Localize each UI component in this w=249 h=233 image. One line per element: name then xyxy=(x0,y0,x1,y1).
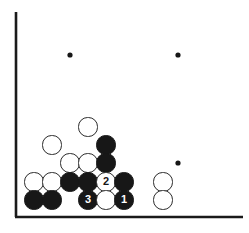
stone-black-move-3: 3 xyxy=(78,190,97,209)
star-point-0 xyxy=(67,52,72,57)
stone-black xyxy=(78,172,97,191)
stone-white-move-2: 2 xyxy=(96,172,115,191)
star-point-1 xyxy=(175,52,180,57)
stone-black xyxy=(24,190,43,209)
stone-white xyxy=(24,172,43,191)
stone-black xyxy=(60,172,79,191)
stone-white xyxy=(42,172,61,191)
stone-move-number: 1 xyxy=(121,194,127,205)
stone-black xyxy=(114,172,133,191)
stone-black-move-1: 1 xyxy=(114,190,133,209)
stone-white xyxy=(153,172,172,191)
stone-move-number: 3 xyxy=(85,194,91,205)
stone-white xyxy=(96,190,115,209)
star-point-2 xyxy=(175,160,180,165)
stone-black xyxy=(42,190,61,209)
stone-move-number: 2 xyxy=(103,176,109,187)
stone-white xyxy=(153,190,172,209)
go-board-diagram: 231 xyxy=(0,0,249,233)
stone-black xyxy=(96,135,115,154)
stone-white xyxy=(78,153,97,172)
stone-white xyxy=(78,117,97,136)
stone-black xyxy=(96,153,115,172)
stone-white xyxy=(42,135,61,154)
stone-white xyxy=(60,153,79,172)
